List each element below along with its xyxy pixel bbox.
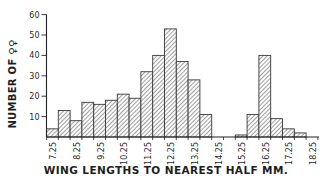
y-tick-label: 10 (29, 113, 39, 122)
y-tick-label: 50 (29, 31, 39, 40)
bar-15.5 (247, 115, 259, 137)
x-tick-label: 18.25 (309, 142, 318, 165)
x-tick-label: 11.25 (144, 142, 153, 165)
bar-12.5 (176, 62, 188, 137)
bar-7.5 (58, 110, 70, 137)
bar-17.0 (283, 129, 295, 137)
bar-11.5 (153, 55, 165, 137)
bar-8.0 (70, 121, 82, 137)
x-tick-label: 17.25 (285, 142, 294, 165)
y-tick-label: 60 (29, 11, 39, 20)
x-tick-label: 15.25 (238, 142, 247, 165)
x-axis: 7.258.259.2510.2511.2512.2513.2514.2515.… (47, 137, 319, 165)
x-tick-label: 16.25 (262, 142, 271, 165)
y-tick-label: 20 (29, 92, 39, 101)
bar-17.5 (294, 133, 306, 137)
x-tick-label: 13.25 (191, 142, 200, 165)
bars (47, 29, 307, 137)
bar-16.5 (271, 119, 283, 137)
x-tick-label: 12.25 (167, 142, 176, 165)
y-tick-label: 40 (29, 51, 39, 60)
x-tick-label: 14.25 (215, 142, 224, 165)
x-tick-label: 10.25 (120, 142, 129, 165)
svg-text:NUMBER OF ♀♀: NUMBER OF ♀♀ (7, 39, 18, 128)
bar-9.5 (106, 100, 118, 137)
x-tick-label: 7.25 (49, 142, 58, 160)
bar-11.0 (141, 72, 153, 137)
bar-13.5 (200, 115, 212, 137)
bar-16.0 (259, 55, 271, 137)
x-tick-label: 9.25 (97, 142, 106, 160)
histogram-chart: 102030405060 7.258.259.2510.2511.2512.25… (0, 0, 332, 187)
x-axis-title: WING LENGTHS TO NEAREST HALF MM. (0, 164, 332, 176)
bar-12.0 (165, 29, 177, 137)
bar-7.0 (47, 129, 59, 137)
bar-10.0 (117, 94, 129, 137)
x-tick-label: 8.25 (73, 142, 82, 160)
y-axis: 102030405060 (29, 11, 46, 137)
bar-9.0 (94, 104, 106, 137)
bar-10.5 (129, 98, 141, 137)
y-tick-label: 30 (29, 72, 39, 81)
bar-13.0 (188, 80, 200, 137)
y-axis-title: NUMBER OF ♀♀ (4, 34, 20, 134)
bar-8.5 (82, 102, 94, 137)
